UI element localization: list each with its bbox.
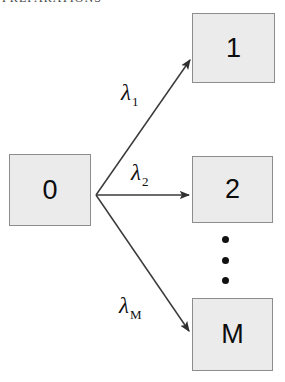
ellipsis-dot (222, 257, 229, 264)
lambda-subscript: 2 (142, 174, 149, 189)
lambda-subscript: 1 (132, 94, 139, 109)
vertical-ellipsis-icon (218, 236, 232, 284)
lambda-symbol: λ (131, 160, 141, 185)
state-box-m-label: M (221, 321, 244, 348)
state-box-1-label: 1 (226, 35, 241, 62)
state-box-0-label: 0 (42, 177, 57, 204)
edge-arrow-0-to-M (96, 195, 189, 331)
diagram-canvas: PREPARATIONS 0 1 2 M λ1 λ2 λM (0, 0, 285, 382)
ellipsis-dot (222, 277, 229, 284)
lambda-subscript: M (130, 307, 142, 322)
state-box-0[interactable]: 0 (9, 154, 91, 226)
state-box-2[interactable]: 2 (192, 156, 273, 223)
rate-label-lambda-m: λM (119, 293, 141, 321)
lambda-symbol: λ (119, 293, 129, 318)
rate-label-lambda-2: λ2 (131, 160, 147, 188)
ellipsis-dot (222, 236, 229, 243)
lambda-symbol: λ (121, 80, 131, 105)
state-box-1[interactable]: 1 (192, 13, 275, 83)
state-box-m[interactable]: M (192, 298, 273, 371)
state-box-2-label: 2 (225, 176, 240, 203)
rate-label-lambda-1: λ1 (121, 80, 137, 108)
